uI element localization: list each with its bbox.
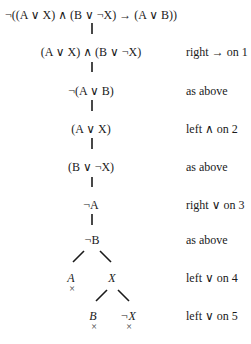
justification-7: as above [186, 233, 228, 247]
truth-tree: ¬((A ∨ X) ∧ (B ∨ ¬X) → (A ∨ B)) (A ∨ X) … [0, 0, 251, 344]
closed-branch-cross-icon: × [69, 284, 75, 294]
tree-node-8-right: X [108, 271, 115, 285]
justification-4: left ∧ on 2 [186, 122, 238, 136]
tree-node-7: ¬B [85, 233, 100, 247]
tree-node-1: ¬((A ∨ X) ∧ (B ∨ ¬X) → (A ∨ B)) [5, 8, 177, 22]
justification-2: right → on 1 [186, 45, 248, 59]
justification-6: right ∨ on 3 [186, 198, 244, 212]
tree-node-3: ¬(A ∨ B) [68, 84, 114, 98]
tree-node-2: (A ∨ X) ∧ (B ∨ ¬X) [41, 45, 141, 59]
tree-node-5: (B ∨ ¬X) [68, 160, 114, 174]
closed-branch-cross-icon: × [126, 322, 132, 332]
justification-3: as above [186, 84, 228, 98]
closed-branch-cross-icon: × [91, 322, 97, 332]
tree-node-4: (A ∨ X) [71, 122, 110, 136]
justification-9: left ∨ on 5 [186, 309, 238, 323]
justification-8: left ∨ on 4 [186, 271, 238, 285]
tree-node-6: ¬A [83, 198, 98, 212]
justification-5: as above [186, 160, 228, 174]
